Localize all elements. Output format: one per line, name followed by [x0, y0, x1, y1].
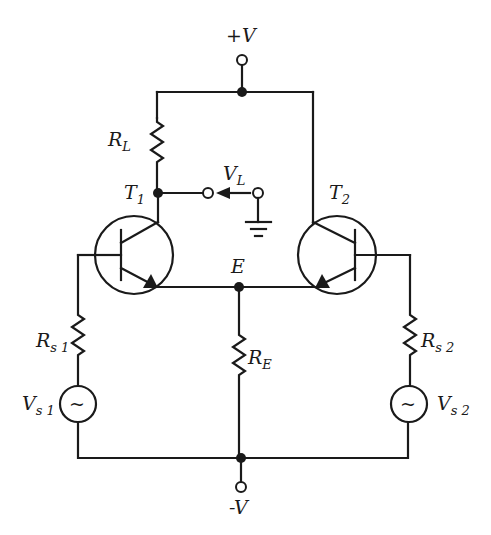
output-terminal	[203, 188, 213, 198]
transistor2-npn-icon	[298, 216, 410, 294]
load-resistor-label: RL	[107, 128, 131, 154]
load-resistor	[151, 118, 163, 193]
transistor1-label: T1	[124, 181, 145, 207]
supply-negative-terminal	[236, 482, 246, 492]
svg-text:~: ~	[400, 392, 416, 414]
top-rail-wire	[157, 92, 313, 224]
emitter-node-label: E	[230, 255, 245, 277]
supply-positive-label: +V	[226, 24, 258, 46]
source-resistor1-label: Rs 1	[35, 329, 69, 355]
ac-source1-icon: ~	[60, 386, 96, 422]
source2-label: Vs 2	[437, 392, 470, 418]
ac-source2-icon: ~	[391, 386, 427, 422]
bottom-rail-wire	[78, 422, 408, 458]
source-resistor2-label: Rs 2	[420, 329, 454, 355]
emitter-resistor	[233, 287, 245, 458]
ground-icon	[246, 198, 271, 236]
source-resistor2	[404, 255, 416, 385]
circuit-diagram: +V RL VL T1	[0, 0, 491, 535]
output-voltage-label: VL	[223, 162, 245, 188]
top-junction-dot	[237, 87, 247, 97]
transistor2-label: T2	[329, 181, 350, 207]
supply-positive-terminal	[237, 55, 247, 92]
output-voltage-arrow-icon	[216, 187, 250, 199]
transistor1-npn-icon	[95, 193, 173, 294]
ground-terminal	[253, 188, 263, 198]
source-resistor1	[72, 255, 84, 385]
supply-negative-label: -V	[229, 496, 250, 518]
emitter-resistor-label: RE	[247, 346, 272, 372]
source1-label: Vs 1	[22, 392, 55, 418]
svg-text:~: ~	[69, 392, 85, 414]
